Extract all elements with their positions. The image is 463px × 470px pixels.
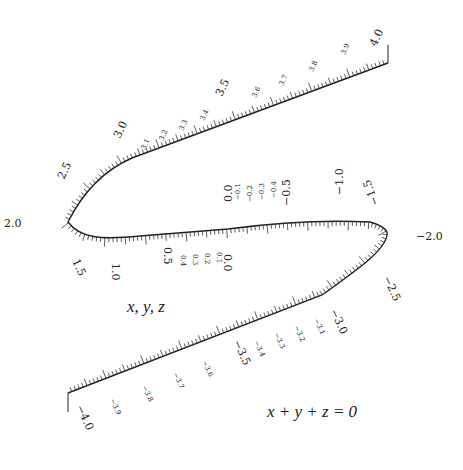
tick — [99, 174, 102, 177]
tick — [270, 97, 273, 105]
tick — [383, 60, 385, 64]
tick — [109, 166, 112, 170]
tick — [374, 249, 377, 252]
tick — [127, 155, 129, 159]
tick — [293, 297, 296, 305]
minor-tick-label: −3.7 — [171, 371, 185, 390]
major-tick-label: 2.0 — [4, 217, 22, 230]
tick — [186, 232, 187, 241]
tick — [317, 292, 319, 296]
minor-tick-label: −0.3 — [258, 183, 266, 200]
tick — [325, 81, 327, 85]
tick — [96, 237, 97, 241]
tick — [245, 111, 247, 115]
tick — [255, 311, 258, 319]
tick — [81, 192, 85, 195]
minor-tick-label: −3.9 — [108, 397, 122, 416]
tick — [199, 128, 201, 132]
minor-tick-label: 3.7 — [278, 73, 290, 86]
tick — [249, 110, 251, 114]
tick — [207, 125, 209, 129]
tick — [306, 89, 308, 93]
tick — [359, 256, 365, 263]
tick — [371, 64, 373, 68]
tick — [180, 135, 182, 139]
tick — [97, 377, 99, 381]
tick — [112, 164, 114, 168]
tick — [245, 320, 247, 324]
tick — [79, 196, 83, 199]
tick — [93, 379, 95, 383]
minor-tick-label: −3.4 — [252, 339, 267, 358]
tick — [349, 270, 352, 274]
tick — [336, 279, 339, 283]
tick — [257, 107, 259, 111]
tick — [381, 228, 384, 231]
tick — [371, 223, 372, 227]
tick — [364, 67, 366, 71]
tick — [160, 350, 163, 357]
tick — [79, 233, 81, 237]
tick — [360, 69, 362, 73]
tick — [283, 305, 285, 309]
tick — [192, 340, 194, 344]
tick — [366, 64, 368, 71]
tick — [84, 379, 87, 386]
tick — [312, 291, 315, 298]
tick — [375, 63, 377, 67]
tick — [232, 111, 235, 119]
tick — [206, 231, 207, 238]
tick — [283, 97, 285, 101]
major-tick-label: −2.5 — [380, 274, 403, 304]
tick — [378, 226, 380, 230]
tick — [233, 324, 235, 328]
tick — [214, 332, 216, 336]
major-tick-label: 0.5 — [161, 247, 174, 265]
tick — [271, 310, 273, 314]
tick — [219, 121, 221, 125]
tick — [260, 314, 262, 318]
tick — [344, 74, 346, 78]
tick — [188, 342, 190, 346]
tick — [166, 234, 167, 241]
tick — [378, 243, 382, 246]
tick — [65, 217, 69, 219]
minor-tick-label: 3.9 — [340, 42, 352, 55]
tick — [222, 120, 224, 124]
tick — [252, 317, 254, 321]
minor-tick-label: −0.1 — [234, 183, 242, 200]
tick — [267, 225, 268, 234]
variable-label: x, y, z — [126, 297, 165, 316]
tick — [323, 289, 326, 293]
tick — [70, 387, 72, 391]
tick — [156, 140, 159, 148]
tick — [108, 373, 110, 377]
minor-tick-label: −3.1 — [312, 317, 326, 336]
tick — [72, 206, 76, 208]
tick — [179, 341, 182, 349]
tick — [101, 376, 103, 380]
major-tick-label: −0.5 — [280, 179, 293, 206]
nomogram-svg: 4.03.53.02.52.01.51.00.50.00.0−0.5−1.0−1… — [0, 0, 463, 470]
tick — [139, 361, 141, 365]
tick — [165, 351, 167, 355]
tick — [261, 106, 263, 110]
tick — [188, 132, 190, 136]
tick — [318, 84, 320, 88]
major-tick-label: 4.0 — [367, 27, 386, 48]
tick — [320, 291, 322, 295]
tick — [214, 120, 216, 127]
tick — [274, 306, 277, 313]
major-tick-label: −1.0 — [333, 168, 346, 195]
minor-tick-label: 0.4 — [179, 255, 187, 267]
tick — [84, 189, 87, 192]
tick — [192, 131, 194, 135]
tick — [207, 335, 209, 339]
major-tick-label: −1.5 — [360, 178, 381, 208]
minor-tick-label: 3.4 — [199, 108, 211, 122]
tick — [230, 117, 232, 121]
tick — [95, 177, 98, 180]
tick — [280, 98, 282, 102]
tick — [154, 355, 156, 359]
tick — [322, 83, 324, 87]
